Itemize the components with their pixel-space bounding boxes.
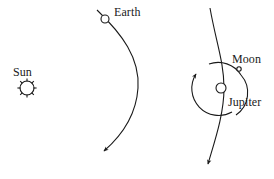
moon-label: Moon (232, 53, 261, 65)
jupiter-body-marker (216, 83, 226, 93)
moon-orbit-arc-left (192, 74, 232, 115)
earth-trajectory (97, 10, 138, 151)
earth-body-marker (101, 15, 109, 23)
sun-label: Sun (13, 66, 32, 78)
jupiter-label: Jupiter (228, 96, 261, 108)
diagram-canvas (0, 0, 274, 179)
orbital-diagram: Sun Earth Moon Jupiter (0, 0, 274, 179)
sun-icon (17, 78, 36, 97)
earth-label: Earth (114, 6, 141, 18)
moon-body-marker (237, 67, 241, 71)
